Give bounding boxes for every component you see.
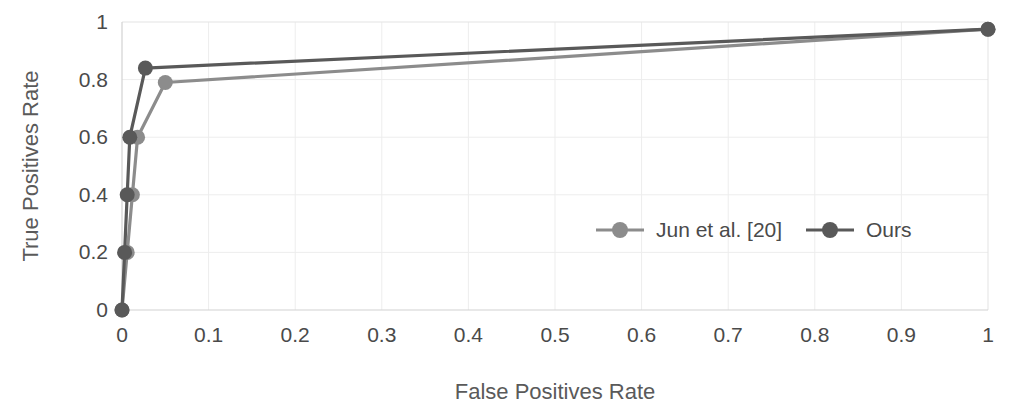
legend-label: Jun et al. [20]: [656, 218, 782, 241]
data-point-marker: [981, 22, 996, 37]
y-axis-tick-labels: 00.20.40.60.81: [79, 10, 109, 321]
x-tick-label: 0.9: [887, 323, 916, 346]
data-point-marker: [158, 75, 173, 90]
x-axis-title: False Positives Rate: [455, 379, 656, 404]
data-point-marker: [115, 303, 130, 318]
y-tick-label: 0.6: [79, 125, 108, 148]
x-tick-label: 0.1: [194, 323, 223, 346]
data-point-marker: [138, 61, 153, 76]
data-point-marker: [120, 187, 135, 202]
y-tick-label: 0: [96, 298, 108, 321]
legend-marker-icon: [822, 222, 838, 238]
y-tick-label: 1: [96, 10, 108, 33]
x-tick-label: 0.3: [367, 323, 396, 346]
x-tick-label: 0.2: [281, 323, 310, 346]
y-axis-title: True Positives Rate: [18, 70, 43, 261]
legend-marker-icon: [612, 222, 628, 238]
x-tick-label: 1: [982, 323, 994, 346]
y-tick-label: 0.4: [79, 183, 109, 206]
x-tick-label: 0.7: [714, 323, 743, 346]
legend-label: Ours: [866, 218, 912, 241]
x-tick-label: 0.5: [540, 323, 569, 346]
x-tick-label: 0.8: [800, 323, 829, 346]
chart-canvas: 00.10.20.30.40.50.60.70.80.91 00.20.40.6…: [0, 0, 1025, 417]
y-tick-label: 0.8: [79, 68, 108, 91]
data-point-marker: [117, 245, 132, 260]
x-tick-label: 0: [116, 323, 128, 346]
x-tick-label: 0.4: [454, 323, 484, 346]
y-tick-label: 0.2: [79, 240, 108, 263]
roc-chart-figure: 00.10.20.30.40.50.60.70.80.91 00.20.40.6…: [0, 0, 1025, 417]
x-axis-tick-labels: 00.10.20.30.40.50.60.70.80.91: [116, 323, 994, 346]
data-point-marker: [122, 130, 137, 145]
x-tick-label: 0.6: [627, 323, 656, 346]
